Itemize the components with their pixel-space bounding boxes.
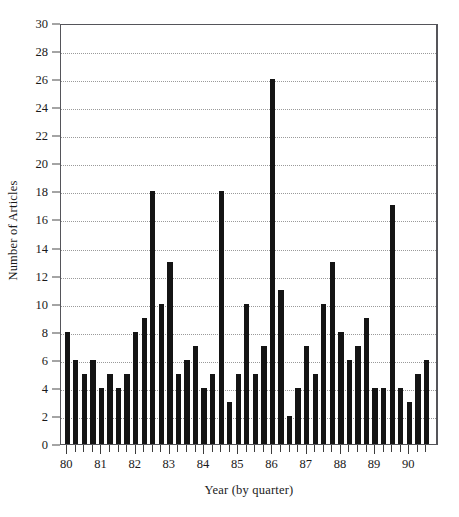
bar [124,374,129,444]
bar [407,402,412,444]
y-tick-mark [52,220,60,221]
x-tick-label: 80 [60,457,73,472]
x-tick-minor [366,445,367,452]
x-tick-label: 85 [231,457,244,472]
bar [313,374,318,444]
x-tick-major [408,445,409,454]
bar [398,388,403,444]
x-tick-label: 90 [402,457,415,472]
x-axis-title: Year (by quarter) [60,483,438,498]
x-tick-minor [297,445,298,452]
y-tick-mark [52,136,60,137]
y-tick-label: 0 [42,438,48,453]
x-tick-major [169,445,170,454]
bar-chart-figure: Number of Articles 024681012141618202224… [0,0,459,517]
bar [159,304,164,444]
y-tick-mark [52,445,60,446]
x-tick-minor [220,445,221,452]
x-tick-major [237,445,238,454]
y-tick-label: 30 [36,17,49,32]
x-tick-major [203,445,204,454]
bar [390,205,395,444]
x-tick-minor [212,445,213,452]
x-tick-minor [126,445,127,452]
y-tick-label: 2 [42,409,48,424]
bar [347,360,352,444]
bar [142,318,147,444]
bar [176,374,181,444]
bar [364,318,369,444]
x-tick-minor [357,445,358,452]
x-tick-major [306,445,307,454]
bar [82,374,87,444]
x-tick-minor [348,445,349,452]
x-tick-label: 86 [265,457,278,472]
y-tick-mark [52,332,60,333]
x-tick-label: 81 [94,457,107,472]
x-tick-minor [425,445,426,452]
x-tick-minor [92,445,93,452]
bar [355,346,360,444]
x-tick-minor [331,445,332,452]
y-tick-mark [52,80,60,81]
bar [90,360,95,444]
y-tick-mark [52,52,60,53]
x-tick-minor [263,445,264,452]
bar [227,402,232,444]
x-tick-minor [75,445,76,452]
bar [253,374,258,444]
x-tick-minor [391,445,392,452]
bar [304,346,309,444]
y-tick-label: 4 [42,381,48,396]
bar [210,374,215,444]
y-tick-label: 6 [42,353,48,368]
x-tick-label: 83 [163,457,176,472]
x-tick-minor [417,445,418,452]
x-tick-minor [280,445,281,452]
y-tick-label: 24 [36,101,49,116]
y-tick-mark [52,416,60,417]
bar [321,304,326,444]
y-tick-mark [52,248,60,249]
y-tick-mark [52,164,60,165]
y-tick-label: 26 [36,73,49,88]
y-tick-mark [52,276,60,277]
x-tick-label: 87 [299,457,312,472]
x-tick-major [374,445,375,454]
y-tick-label: 20 [36,157,49,172]
x-tick-minor [143,445,144,452]
bar [415,374,420,444]
x-tick-minor [160,445,161,452]
bar [381,388,386,444]
x-tick-minor [383,445,384,452]
y-tick-mark [52,192,60,193]
bar [201,388,206,444]
bar [107,374,112,444]
bar [236,374,241,444]
x-tick-major [100,445,101,454]
bar [244,304,249,444]
x-tick-minor [400,445,401,452]
bar-series [61,25,436,444]
y-tick-label: 16 [36,213,49,228]
x-tick-minor [152,445,153,452]
y-tick-mark [52,24,60,25]
x-tick-label: 89 [368,457,381,472]
bar [338,332,343,444]
x-tick-label: 88 [334,457,347,472]
y-tick-label: 8 [42,325,48,340]
x-tick-major [271,445,272,454]
bar [261,346,266,444]
x-tick-minor [83,445,84,452]
bar [295,388,300,444]
bar [99,388,104,444]
x-tick-minor [314,445,315,452]
bar [150,191,155,444]
x-tick-minor [195,445,196,452]
y-tick-label: 28 [36,45,49,60]
bar [330,262,335,444]
bar [73,360,78,444]
plot-area [60,24,438,445]
x-tick-label: 84 [197,457,210,472]
bar [372,388,377,444]
